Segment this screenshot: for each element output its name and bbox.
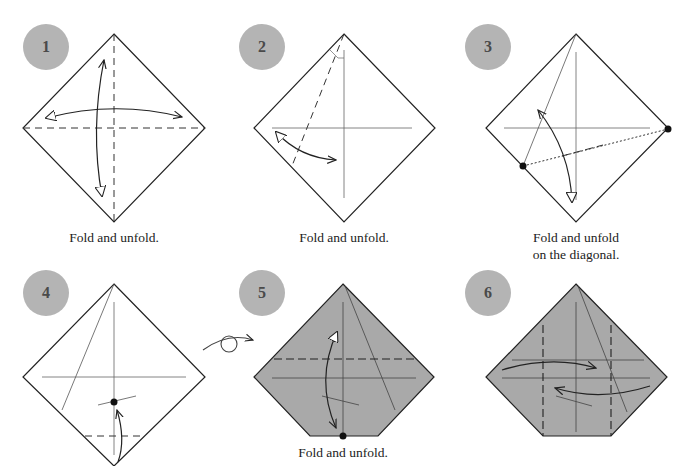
- step-caption: Fold and unfold.: [34, 229, 194, 246]
- step-5-diagram: [254, 284, 434, 440]
- step-caption: Fold and unfold.: [263, 444, 423, 461]
- step-number-badge: 6: [465, 270, 511, 316]
- step-number-badge: 3: [465, 24, 511, 70]
- reference-dot: [111, 399, 118, 406]
- step-number-badge: 2: [239, 24, 285, 70]
- turn-over-icon: [203, 336, 253, 352]
- step-6-diagram: [486, 284, 667, 436]
- step-number-badge: 4: [23, 270, 69, 316]
- step-caption: Fold and unfold.: [264, 229, 424, 246]
- step-number-badge: 1: [23, 24, 69, 70]
- step-number-badge: 5: [239, 270, 285, 316]
- step-2-diagram: [254, 34, 435, 222]
- reference-dot: [520, 163, 527, 170]
- step-3-diagram: [486, 34, 672, 222]
- reference-dot: [665, 126, 672, 133]
- step-caption: Fold and unfold on the diagonal.: [496, 229, 656, 263]
- reference-dot: [340, 433, 347, 440]
- paper-folded: [254, 284, 434, 436]
